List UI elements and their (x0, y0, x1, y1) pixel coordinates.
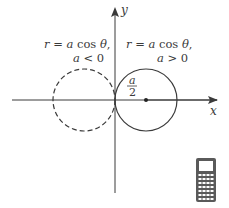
diagram-svg: y x r = a cos θ, a < 0 r = a cos θ, a > … (0, 0, 229, 208)
left-equation: r = a cos θ, (44, 37, 110, 51)
polar-circles-diagram: y x r = a cos θ, a < 0 r = a cos θ, a > … (0, 0, 229, 208)
x-axis-label: x (210, 104, 217, 118)
center-point (144, 98, 148, 102)
radius-denominator: 2 (129, 86, 136, 99)
left-condition: a < 0 (73, 51, 104, 65)
right-equation: r = a cos θ, (126, 37, 192, 51)
right-condition: a > 0 (157, 51, 188, 65)
graphing-calculator-icon (196, 158, 216, 202)
y-axis-label: y (120, 3, 128, 17)
